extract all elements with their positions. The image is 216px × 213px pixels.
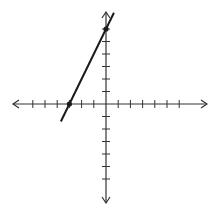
data-point bbox=[67, 101, 72, 106]
axes bbox=[13, 12, 207, 203]
coordinate-plane bbox=[0, 0, 216, 213]
data-point bbox=[103, 26, 108, 31]
